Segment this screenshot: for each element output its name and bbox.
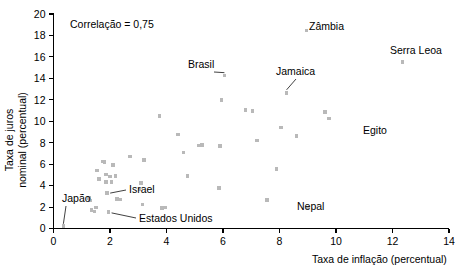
- leader-japao: [63, 206, 66, 224]
- data-point-marker: [223, 74, 227, 78]
- y-tick-label: 14: [34, 72, 46, 84]
- leader-jamaica: [287, 79, 296, 90]
- data-point-marker: [255, 139, 259, 143]
- x-tick-label: 10: [330, 235, 342, 247]
- y-tick-label: 6: [40, 158, 46, 170]
- data-point-marker: [265, 198, 269, 202]
- data-markers: [62, 29, 405, 228]
- data-point-marker: [220, 98, 224, 102]
- x-tick-label: 2: [107, 235, 113, 247]
- annotation-egito: Egito: [363, 124, 387, 136]
- leader-israel: [110, 190, 126, 193]
- x-tick-label: 8: [277, 235, 283, 247]
- data-point-marker: [401, 60, 405, 64]
- y-tick-label: 20: [34, 8, 46, 20]
- y-tick-label: 12: [34, 94, 46, 106]
- correlation-annotation: Correlação = 0,75: [70, 18, 154, 30]
- y-axis-title-line1: Taxa de juros: [3, 109, 15, 171]
- data-point-marker: [251, 109, 255, 113]
- data-point-marker: [323, 110, 327, 114]
- y-tick-label: 8: [40, 137, 46, 149]
- data-point-marker: [158, 114, 162, 118]
- data-point-marker: [176, 133, 180, 137]
- x-tick-label: 0: [51, 235, 57, 247]
- data-point-marker: [103, 160, 107, 164]
- x-tick-label: 14: [443, 235, 455, 247]
- data-point-marker: [107, 210, 111, 214]
- y-tick-label: 10: [34, 115, 46, 127]
- y-tick-label: 16: [34, 51, 46, 63]
- data-point-marker: [104, 180, 108, 184]
- y-axis-title-line2: nominal (percentual): [16, 92, 28, 188]
- leader-brasil: [214, 72, 224, 73]
- data-point-marker: [305, 29, 309, 33]
- x-axis-title: Taxa de inflação (percentual): [312, 253, 447, 265]
- annotation-nepal: Nepal: [297, 200, 324, 212]
- x-tick-label: 4: [164, 235, 170, 247]
- leader-eua: [112, 213, 136, 218]
- data-point-marker: [275, 167, 279, 171]
- annotation-zambia: Zâmbia: [309, 20, 344, 32]
- data-point-marker: [217, 186, 221, 190]
- annotation-japao: Japão: [62, 192, 91, 204]
- data-point-marker: [111, 163, 115, 167]
- data-point-marker: [285, 91, 289, 95]
- y-tick-label: 18: [34, 29, 46, 41]
- data-point-marker: [218, 144, 222, 148]
- data-point-marker: [200, 143, 204, 147]
- y-tick-label: 4: [40, 179, 46, 191]
- data-point-marker: [118, 198, 122, 202]
- scatter-chart: 02468101214161820 02468101214 Correlação…: [0, 0, 464, 271]
- chart-canvas: 02468101214161820 02468101214 Correlação…: [0, 0, 464, 271]
- y-axis-ticks: 02468101214161820: [34, 8, 54, 235]
- data-point-marker: [108, 175, 112, 179]
- data-point-marker: [94, 206, 98, 210]
- data-point-marker: [105, 191, 109, 195]
- data-point-marker: [279, 126, 283, 130]
- data-point-marker: [295, 134, 299, 138]
- data-point-marker: [128, 155, 132, 159]
- data-point-marker: [62, 224, 66, 228]
- data-point-marker: [163, 206, 167, 210]
- annotation-jamaica: Jamaica: [276, 65, 315, 77]
- data-point-marker: [114, 174, 118, 178]
- y-tick-label: 2: [40, 201, 46, 213]
- x-axis-ticks: 02468101214: [51, 229, 455, 247]
- annotation-serra-leoa: Serra Leoa: [390, 44, 442, 56]
- data-point-marker: [141, 203, 145, 207]
- data-point-marker: [244, 108, 248, 112]
- data-point-marker: [104, 173, 108, 177]
- data-point-marker: [97, 177, 101, 181]
- annotation-brasil: Brasil: [188, 58, 214, 70]
- y-tick-label: 0: [40, 222, 46, 234]
- data-point-marker: [186, 174, 190, 178]
- data-point-marker: [327, 117, 331, 121]
- data-point-marker: [95, 169, 99, 173]
- x-tick-label: 12: [387, 235, 399, 247]
- data-point-marker: [142, 158, 146, 162]
- annotation-estados-unidos: Estados Unidos: [139, 212, 213, 224]
- annotation-leader-lines: [63, 72, 296, 224]
- annotation-israel: Israel: [129, 183, 155, 195]
- data-point-marker: [93, 210, 97, 214]
- x-tick-label: 6: [220, 235, 226, 247]
- data-point-marker: [182, 151, 186, 155]
- data-point-marker: [110, 180, 114, 184]
